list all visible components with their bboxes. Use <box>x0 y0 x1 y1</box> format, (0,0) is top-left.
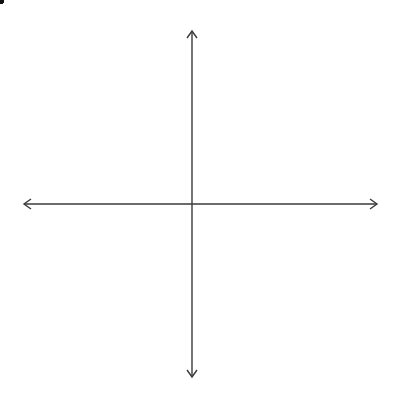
reflection-diagram <box>0 0 397 395</box>
vertex-28-c-prime <box>0 0 4 4</box>
axes <box>24 31 377 377</box>
triangle-image-28 <box>0 0 4 4</box>
coordinate-plane <box>0 0 397 395</box>
